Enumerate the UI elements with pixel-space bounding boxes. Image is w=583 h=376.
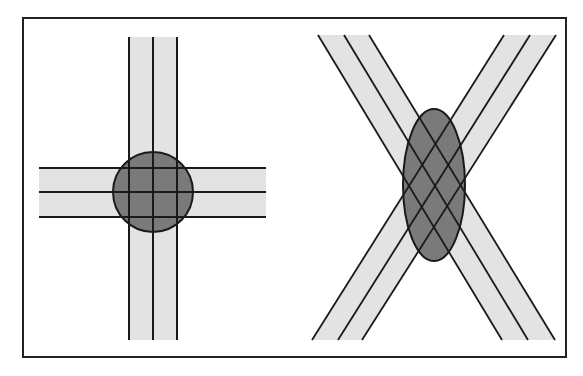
beam-crossing-diagram [0, 0, 583, 376]
perpendicular-crossing-panel [39, 37, 266, 340]
oblique-crossing-panel [312, 35, 556, 340]
